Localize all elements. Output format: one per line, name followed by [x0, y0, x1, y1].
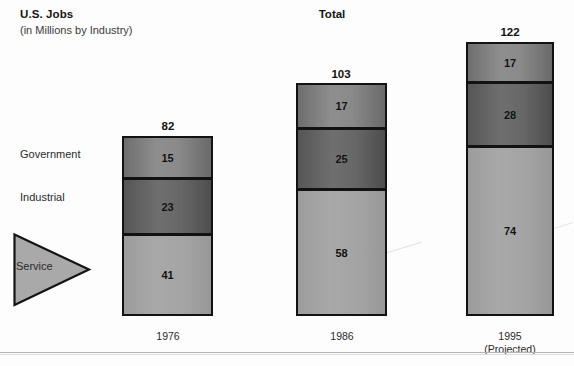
footer-divider: [0, 352, 574, 353]
segment-value: 74: [504, 225, 516, 237]
bar-1986[interactable]: 17 25 58: [296, 83, 387, 316]
chart-canvas: U.S. Jobs (in Millions by Industry) Tota…: [0, 0, 574, 366]
total-heading: Total: [302, 8, 362, 20]
page-subtitle: (in Millions by Industry): [20, 24, 132, 36]
category-year: 1995: [498, 330, 521, 342]
segment-service-1976[interactable]: 41: [124, 236, 211, 314]
segment-service-1995[interactable]: 74: [468, 148, 552, 314]
legend-label-service: Service: [16, 260, 53, 272]
legend-label-government: Government: [20, 148, 81, 160]
segment-value: 23: [161, 201, 173, 213]
segment-value: 17: [335, 100, 347, 112]
segment-value: 25: [335, 153, 347, 165]
bar-total-1995: 122: [480, 26, 540, 38]
footer-divider-shadow: [0, 354, 574, 355]
bar-total-1976: 82: [138, 120, 198, 132]
segment-industrial-1995[interactable]: 28: [468, 84, 552, 148]
segment-industrial-1986[interactable]: 25: [298, 130, 385, 191]
segment-value: 41: [161, 269, 173, 281]
segment-value: 58: [335, 247, 347, 259]
bar-1995[interactable]: 17 28 74: [466, 42, 554, 316]
segment-industrial-1976[interactable]: 23: [124, 180, 211, 236]
category-label-1976: 1976: [137, 330, 199, 343]
category-label-1986: 1986: [311, 330, 373, 343]
legend-label-industrial: Industrial: [20, 191, 65, 203]
segment-value: 15: [161, 152, 173, 164]
segment-value: 28: [504, 109, 516, 121]
category-year: 1976: [156, 330, 179, 342]
segment-government-1995[interactable]: 17: [468, 44, 552, 84]
bar-total-1986: 103: [311, 68, 371, 80]
page-title: U.S. Jobs: [20, 8, 73, 20]
segment-government-1986[interactable]: 17: [298, 85, 385, 130]
segment-service-1986[interactable]: 58: [298, 191, 385, 314]
segment-value: 17: [504, 57, 516, 69]
segment-government-1976[interactable]: 15: [124, 138, 211, 180]
category-year: 1986: [330, 330, 353, 342]
bar-1976[interactable]: 15 23 41: [122, 136, 213, 316]
